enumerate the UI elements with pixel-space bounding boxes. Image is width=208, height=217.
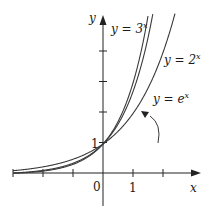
chart: 0 1 1 x y y = 3x y = 2x y = ex bbox=[0, 0, 208, 217]
origin-label: 0 bbox=[93, 180, 101, 194]
y-axis-label: y bbox=[88, 11, 96, 25]
axes bbox=[14, 15, 201, 206]
x-tick-label-1: 1 bbox=[129, 181, 137, 195]
y-axis-arrow-icon bbox=[100, 15, 107, 25]
curve-y-e-x bbox=[13, 14, 153, 173]
label-2x: y = 2x bbox=[163, 52, 201, 67]
annotation-arrow bbox=[150, 116, 159, 143]
x-axis-label: x bbox=[190, 181, 197, 195]
curve-y-3-x bbox=[13, 16, 148, 173]
y-tick-label-1: 1 bbox=[91, 137, 99, 151]
label-3x: y = 3x bbox=[110, 21, 148, 36]
label-ex: y = ex bbox=[152, 91, 190, 106]
annotation-arrowhead-icon bbox=[141, 111, 149, 118]
x-axis-arrow-icon bbox=[191, 170, 201, 177]
